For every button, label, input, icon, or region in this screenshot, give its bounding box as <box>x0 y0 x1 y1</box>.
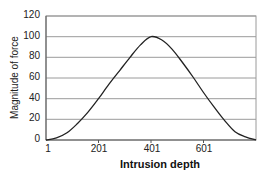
y-tick-label: 100 <box>16 30 40 41</box>
x-tick-label: 401 <box>137 143 167 154</box>
y-axis-label: Magnitude of force <box>9 18 20 138</box>
y-tick-label: 40 <box>16 92 40 103</box>
x-tick-label: 1 <box>33 143 63 154</box>
y-tick-label: 20 <box>16 112 40 123</box>
y-tick-label: 80 <box>16 50 40 61</box>
x-axis-label: Intrusion depth <box>90 158 230 170</box>
y-tick-label: 60 <box>16 71 40 82</box>
x-tick-label: 601 <box>189 143 219 154</box>
x-tick-label: 201 <box>84 143 114 154</box>
chart: 120 100 80 60 40 20 0 1 201 401 601 Intr… <box>0 0 269 180</box>
y-tick-label: 120 <box>16 9 40 20</box>
